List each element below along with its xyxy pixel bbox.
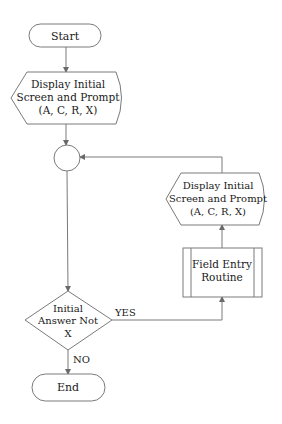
flowchart-diagram: Start Display Initial Screen and Prompt … [0, 0, 282, 424]
edge-display-2-to-connector [80, 157, 222, 173]
end-label: End [57, 381, 79, 394]
node-connector-circle [54, 145, 80, 171]
display-2-line-2: Screen and Prompt [169, 193, 267, 204]
display-1-line-3: (A, C, R, X) [39, 104, 98, 116]
field-entry-line-2: Routine [201, 271, 243, 283]
display-1-line-1: Display Initial [31, 78, 106, 90]
node-decision: Initial Answer Not X [25, 291, 112, 350]
edge-label-no: NO [73, 354, 90, 365]
display-2-line-3: (A, C, R, X) [190, 206, 246, 217]
node-start: Start [29, 24, 101, 47]
display-2-line-1: Display Initial [183, 180, 254, 191]
decision-line-1: Initial [53, 303, 83, 314]
node-field-entry: Field Entry Routine [183, 248, 262, 297]
edge-label-yes: YES [114, 307, 136, 318]
node-display-2: Display Initial Screen and Prompt (A, C,… [166, 173, 267, 225]
field-entry-line-1: Field Entry [192, 258, 252, 270]
edge-connector-to-decision [67, 171, 68, 291]
decision-line-2: Answer Not [37, 315, 98, 326]
node-end: End [32, 374, 105, 401]
node-display-1: Display Initial Screen and Prompt (A, C,… [11, 72, 122, 124]
decision-line-3: X [64, 328, 72, 339]
start-label: Start [51, 30, 80, 43]
display-1-line-2: Screen and Prompt [16, 91, 120, 103]
